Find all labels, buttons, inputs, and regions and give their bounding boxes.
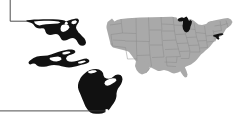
maryland-inset-city-dot[interactable]	[65, 22, 68, 25]
michigan-lower-peninsula-inset[interactable]	[78, 69, 123, 114]
inset-layer	[0, 0, 249, 130]
map-figure	[0, 0, 249, 130]
maryland-leader-line	[10, 0, 28, 21]
maryland-inset[interactable]	[27, 18, 87, 45]
michigan-lower-peninsula-shape[interactable]	[78, 69, 123, 114]
michigan-upper-peninsula-inset[interactable]	[29, 49, 90, 67]
